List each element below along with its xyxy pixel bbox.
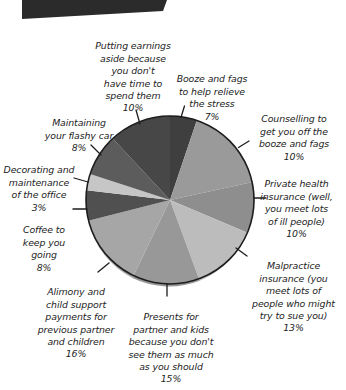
label-counselling-text: Counselling to get you off the booze and… (259, 113, 329, 149)
label-counselling: Counselling to get you off the booze and… (243, 101, 345, 175)
label-decorating-text: Decorating and maintenance of the office (4, 164, 75, 200)
label-maintaining-car-text: Maintaining your flashy car (45, 117, 113, 140)
label-private-health-insurance-percent: 10% (247, 228, 346, 240)
label-presents-text: Presents for partner and kids because yo… (128, 311, 213, 372)
label-malpractice-insurance: Malpractice insurance (you meet lots of … (241, 248, 346, 347)
label-alimony-percent: 16% (19, 348, 133, 360)
label-alimony-text: Alimony and child support payments for p… (38, 286, 114, 347)
pie-chart-page: Putting earnings aside because you don't… (0, 0, 346, 390)
label-counselling-percent: 10% (243, 151, 345, 163)
label-malpractice-insurance-percent: 13% (241, 322, 346, 334)
label-coffee-percent: 8% (13, 262, 75, 274)
leader-line-alimony (98, 263, 109, 272)
label-alimony-and-child-support: Alimony and child support payments for p… (19, 274, 133, 373)
label-decorating-percent: 3% (1, 202, 77, 214)
label-presents-percent: 15% (112, 373, 230, 385)
label-private-health-insurance: Private health insurance (well, you meet… (247, 166, 346, 253)
label-coffee-text: Coffee to keep you going (23, 224, 65, 260)
label-private-health-insurance-text: Private health insurance (well, you meet… (260, 178, 333, 226)
label-maintaining-flashy-car: Maintaining your flashy car8% (33, 105, 125, 167)
label-booze-and-fags-text: Booze and fags to help relieve the stres… (177, 73, 248, 109)
label-malpractice-insurance-text: Malpractice insurance (you meet lots of … (252, 260, 335, 321)
label-maintaining-car-percent: 8% (33, 142, 125, 154)
